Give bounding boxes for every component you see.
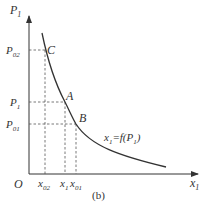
dashed-guides: [29, 50, 76, 174]
point-c-label: C: [47, 43, 56, 57]
point-a-label: A: [65, 89, 74, 103]
point-b-label: B: [79, 111, 87, 125]
origin-label: O: [14, 177, 23, 191]
curve-equation-label: x1=f(P1): [103, 131, 141, 146]
x-tick-x1: x1: [59, 177, 68, 192]
y-tick-p1: P1: [9, 96, 20, 111]
y-tick-p02: P02: [5, 44, 20, 59]
x-axis-label: x1: [189, 176, 199, 192]
y-tick-p01: P01: [5, 118, 20, 133]
curve-x1-f-p1: [42, 33, 166, 167]
diagram-canvas: P1 x1 O P02 P1 P01 x02 x1 x01 C A B x1=f…: [0, 0, 212, 210]
x-tick-x02: x02: [37, 177, 50, 192]
x-tick-x01: x01: [69, 177, 82, 192]
y-axis-label: P1: [9, 3, 21, 19]
figure-caption: (b): [92, 189, 105, 202]
